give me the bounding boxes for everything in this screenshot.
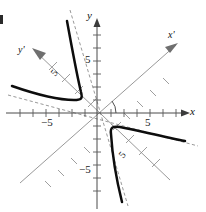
x-axis-tick-label-pos5: 5 — [145, 117, 151, 128]
asymptote-steep — [70, 10, 128, 206]
graph-svg — [0, 0, 206, 212]
y-prime-axis-label: y' — [18, 45, 25, 55]
x-prime-axis-line — [20, 45, 176, 183]
hyperbola-branch-lower-right — [111, 127, 185, 202]
y-prime-arrowhead — [32, 48, 46, 60]
y-axis-tick-label-neg5: −5 — [79, 164, 91, 175]
y-axis-tick-label-pos5: 5 — [85, 54, 91, 65]
figure-canvas: x y x' y' −5 5 5 −5 5 5 — [0, 0, 206, 212]
x-prime-arrowhead — [165, 43, 178, 53]
rotation-angle-arc — [112, 101, 116, 113]
hyperbola-branch-upper-left — [12, 21, 82, 100]
x-prime-axis-label: x' — [168, 30, 175, 40]
x-axis-label: x — [190, 106, 195, 117]
x-axis-tick-label-neg5: −5 — [41, 117, 53, 128]
y-prime-ticks — [49, 62, 160, 167]
x-axis-arrowhead — [181, 110, 190, 117]
y-axis-label: y — [87, 10, 92, 21]
x-axis-group — [6, 109, 190, 117]
y-axis-arrowhead — [94, 18, 101, 27]
